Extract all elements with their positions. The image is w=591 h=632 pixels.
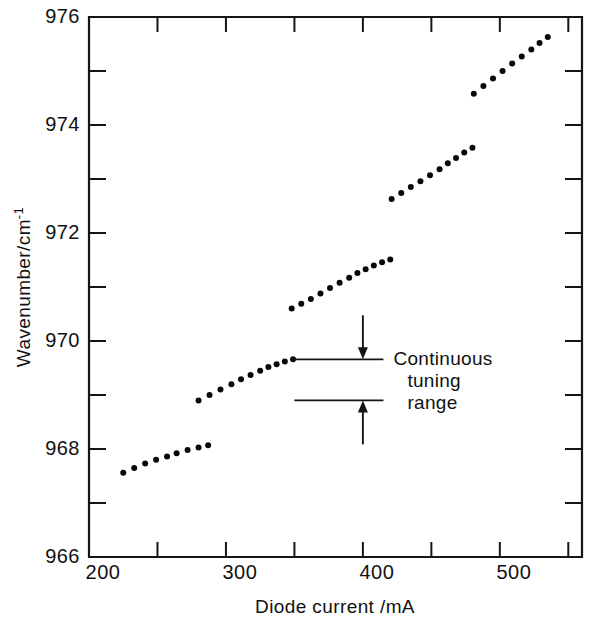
data-point	[509, 60, 515, 66]
annotation-text-line: Continuous	[393, 348, 492, 369]
data-point	[274, 361, 280, 367]
x-tick-label: 200	[86, 561, 121, 583]
data-point	[142, 461, 148, 467]
data-point	[490, 76, 496, 82]
y-axis-title-text: Wavenumber/cm	[13, 219, 34, 367]
data-point	[308, 296, 314, 302]
data-point	[398, 190, 404, 196]
data-point	[317, 290, 323, 296]
data-point	[519, 53, 525, 59]
y-tick-label: 970	[45, 329, 80, 351]
chart-figure: 966968970972974976 200300400500 Wavenumb…	[0, 0, 591, 632]
data-point	[228, 381, 234, 387]
data-point	[387, 256, 393, 262]
data-point	[205, 442, 211, 448]
x-axis-title: Diode current /mA	[255, 596, 415, 617]
data-point	[371, 262, 377, 268]
data-point	[537, 40, 543, 46]
data-point	[437, 166, 443, 172]
y-tick-label: 972	[45, 221, 80, 243]
x-tick-label: 300	[223, 561, 258, 583]
data-point	[471, 91, 477, 97]
y-axis-title-exponent: -1	[11, 207, 26, 219]
data-point	[207, 392, 213, 398]
data-point	[257, 368, 263, 374]
data-point	[289, 306, 295, 312]
wavenumber-vs-diode-current-chart: 966968970972974976 200300400500 Wavenumb…	[0, 0, 591, 632]
data-point	[417, 178, 423, 184]
y-tick-label: 968	[45, 437, 80, 459]
data-point	[265, 364, 271, 370]
svg-text:Wavenumber/cm-1: Wavenumber/cm-1	[11, 207, 34, 367]
data-point	[337, 280, 343, 286]
data-point	[427, 172, 433, 178]
data-point	[545, 34, 551, 40]
data-point	[408, 184, 414, 190]
data-point	[120, 470, 126, 476]
data-point	[528, 46, 534, 52]
data-point	[500, 68, 506, 74]
data-point	[153, 457, 159, 463]
data-point	[389, 196, 395, 202]
data-point	[248, 372, 254, 378]
data-point	[196, 444, 202, 450]
annotation-text-line: range	[407, 392, 457, 413]
data-point	[363, 266, 369, 272]
data-point	[174, 450, 180, 456]
data-point	[282, 359, 288, 365]
y-axis-title: Wavenumber/cm-1	[11, 207, 34, 367]
x-tick-label: 400	[359, 561, 394, 583]
data-point	[327, 285, 333, 291]
data-point	[238, 376, 244, 382]
data-point	[185, 447, 191, 453]
data-point	[217, 387, 223, 393]
data-point	[453, 155, 459, 161]
annotation-text-line: tuning	[407, 370, 461, 391]
data-point	[164, 454, 170, 460]
y-tick-label: 976	[45, 5, 80, 27]
data-point	[354, 270, 360, 276]
data-point	[480, 83, 486, 89]
data-point	[196, 397, 202, 403]
data-point	[445, 160, 451, 166]
data-point	[346, 275, 352, 281]
y-tick-label: 966	[45, 545, 80, 567]
x-tick-label: 500	[496, 561, 531, 583]
data-point	[379, 259, 385, 265]
data-point	[298, 301, 304, 307]
y-tick-label: 974	[45, 113, 80, 135]
data-point	[131, 465, 137, 471]
data-point	[469, 145, 475, 151]
data-point	[461, 150, 467, 156]
